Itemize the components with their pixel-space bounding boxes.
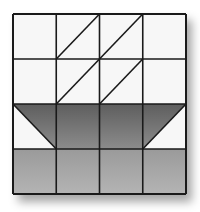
quilt-block [0,0,200,212]
quilt-cell-r2c4 [143,59,186,104]
quilt-cell-r4c3 [100,149,143,194]
quilt-cell-r1c4 [143,14,186,59]
quilt-cell-r1c1 [13,14,56,59]
quilt-cell-r3c3 [100,104,143,149]
quilt-cell-r4c2 [56,149,99,194]
quilt-cell-r3c2 [56,104,99,149]
quilt-cell-r4c4 [143,149,186,194]
quilt-cell-r2c1 [13,59,56,104]
quilt-cell-r4c1 [13,149,56,194]
quilt-block-figure [0,0,200,212]
